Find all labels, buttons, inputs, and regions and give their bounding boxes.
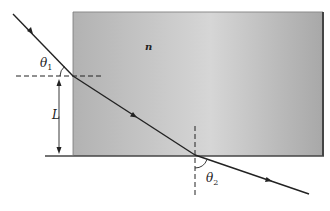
angle-arc-theta2 bbox=[195, 160, 207, 169]
medium-index-label: n bbox=[145, 41, 152, 52]
length-label: L bbox=[51, 108, 60, 122]
refraction-diagram: n θ1 L θ2 bbox=[0, 0, 330, 211]
angle-theta1-label: θ1 bbox=[40, 56, 52, 72]
arrow-icon-incident bbox=[27, 27, 33, 34]
angle-arc-theta1 bbox=[60, 67, 65, 77]
glass-block bbox=[45, 12, 324, 156]
angle-theta2-label: θ2 bbox=[206, 171, 218, 187]
